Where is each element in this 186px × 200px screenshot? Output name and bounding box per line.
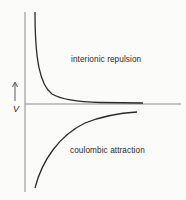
attraction-label: coulombic attraction bbox=[70, 146, 145, 155]
repulsion-label: interionic repulsion bbox=[71, 55, 141, 64]
y-axis-label: V bbox=[13, 104, 19, 114]
up-arrow-icon bbox=[13, 82, 18, 101]
potential-energy-diagram: V interionic repulsion coulombic attract… bbox=[0, 0, 186, 200]
diagram-canvas bbox=[0, 0, 186, 200]
